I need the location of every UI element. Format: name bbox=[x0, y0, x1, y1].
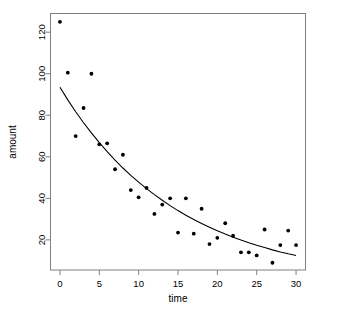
data-point bbox=[97, 142, 101, 146]
chart-container: 20406080100120 051015202530 time amount bbox=[0, 0, 352, 322]
y-tick-label: 100 bbox=[36, 66, 47, 82]
data-point bbox=[223, 221, 227, 225]
data-point bbox=[231, 234, 235, 238]
data-point bbox=[271, 261, 275, 265]
y-tick-label: 120 bbox=[36, 24, 47, 40]
data-point bbox=[208, 242, 212, 246]
data-point bbox=[200, 207, 204, 211]
data-point bbox=[278, 243, 282, 247]
data-point-group bbox=[58, 20, 298, 265]
x-tick-label: 20 bbox=[212, 278, 223, 289]
data-point bbox=[113, 167, 117, 171]
data-point bbox=[105, 141, 109, 145]
fitted-curve bbox=[60, 87, 296, 255]
data-point bbox=[215, 236, 219, 240]
x-tick-label: 10 bbox=[133, 278, 144, 289]
x-axis-ticks: 051015202530 bbox=[57, 270, 301, 289]
data-point bbox=[152, 212, 156, 216]
data-point bbox=[176, 231, 180, 235]
x-tick-label: 15 bbox=[173, 278, 184, 289]
x-tick-label: 5 bbox=[97, 278, 102, 289]
data-point bbox=[184, 196, 188, 200]
x-tick-label: 0 bbox=[57, 278, 62, 289]
data-point bbox=[294, 243, 298, 247]
data-point bbox=[74, 134, 78, 138]
y-axis-label: amount bbox=[7, 125, 18, 159]
y-tick-label: 80 bbox=[36, 110, 47, 121]
data-point bbox=[160, 203, 164, 207]
scatter-plot-with-exponential-fit: 20406080100120 051015202530 time amount bbox=[0, 0, 352, 322]
data-point bbox=[192, 232, 196, 236]
x-tick-label: 30 bbox=[291, 278, 302, 289]
y-tick-label: 20 bbox=[36, 235, 47, 246]
x-tick-label: 25 bbox=[251, 278, 262, 289]
y-axis-ticks: 20406080100120 bbox=[36, 24, 51, 245]
x-axis-label: time bbox=[169, 293, 188, 304]
data-point bbox=[255, 254, 259, 258]
data-point bbox=[121, 153, 125, 157]
data-point bbox=[90, 72, 94, 76]
data-point bbox=[129, 188, 133, 192]
data-point bbox=[137, 195, 141, 199]
data-point bbox=[82, 106, 86, 110]
data-point bbox=[239, 250, 243, 254]
data-point bbox=[145, 186, 149, 190]
data-point bbox=[247, 250, 251, 254]
data-point bbox=[286, 229, 290, 233]
y-tick-label: 60 bbox=[36, 152, 47, 163]
data-point bbox=[263, 228, 267, 232]
y-tick-label: 40 bbox=[36, 193, 47, 204]
data-point bbox=[66, 71, 70, 75]
data-point bbox=[58, 20, 62, 24]
data-point bbox=[168, 196, 172, 200]
